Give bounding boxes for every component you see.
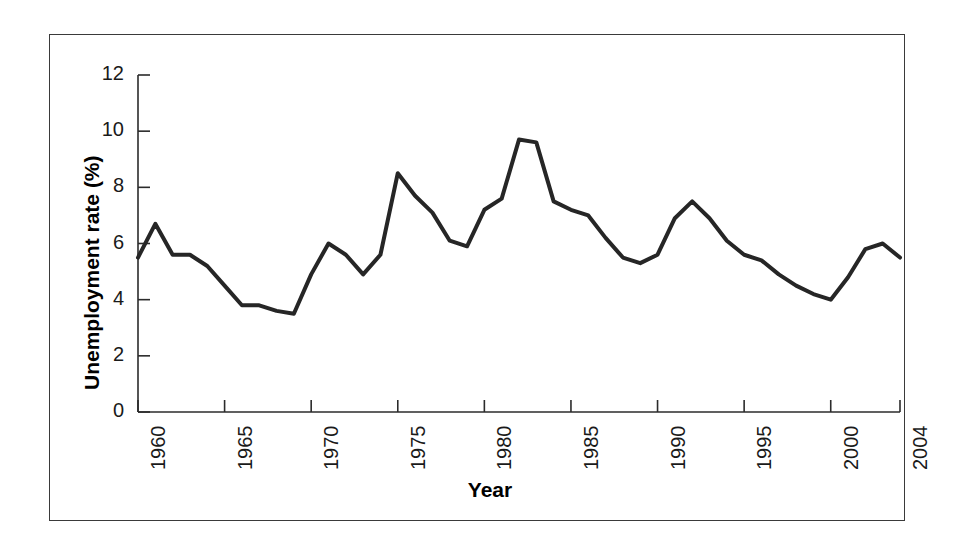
x-tick-label: 2000 — [840, 426, 863, 471]
unemployment-rate-line — [138, 140, 900, 314]
y-tick-label: 0 — [90, 399, 124, 422]
x-tick-label: 2004 — [909, 426, 932, 471]
y-tick-label: 6 — [90, 231, 124, 254]
x-tick-label: 1995 — [753, 426, 776, 471]
y-tick-label: 4 — [90, 287, 124, 310]
x-tick-label: 1990 — [667, 426, 690, 471]
figure-container: Unemployment rate (%) Year 024681012 196… — [0, 0, 972, 556]
x-tick-label: 1960 — [147, 426, 170, 471]
x-tick-label: 1965 — [234, 426, 257, 471]
x-tick-label: 1970 — [320, 426, 343, 471]
x-tick-label: 1985 — [580, 426, 603, 471]
chart-plot-area — [0, 0, 972, 556]
axes-group — [138, 75, 900, 412]
axis-ticks-group — [138, 75, 900, 412]
x-tick-label: 1980 — [493, 426, 516, 471]
y-tick-label: 12 — [90, 62, 124, 85]
y-tick-label: 2 — [90, 343, 124, 366]
x-tick-label: 1975 — [407, 426, 430, 471]
y-tick-label: 10 — [90, 118, 124, 141]
y-tick-label: 8 — [90, 174, 124, 197]
